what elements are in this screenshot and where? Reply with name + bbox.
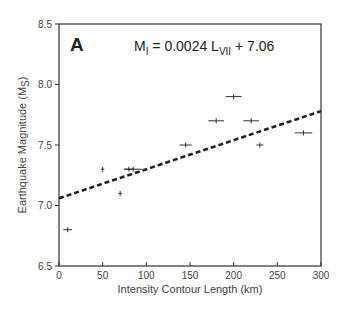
x-axis-title: Intensity Contour Length (km) <box>118 283 263 295</box>
x-tick-label: 150 <box>182 270 199 281</box>
regression-line <box>59 111 321 198</box>
data-points <box>63 94 312 232</box>
y-axis-title: Earthquake Magnitude (MS) <box>16 77 31 214</box>
y-tick-label: 8.0 <box>38 79 52 90</box>
data-point <box>256 143 263 148</box>
y-axis: 6.57.07.58.08.5 <box>38 19 59 272</box>
x-tick-label: 250 <box>269 270 286 281</box>
data-point <box>180 143 192 148</box>
data-point <box>243 118 259 123</box>
data-point <box>101 167 104 172</box>
data-point <box>295 130 312 135</box>
equation-label: MI = 0.0024 LVII + 7.06 <box>134 38 275 57</box>
x-tick-label: 200 <box>225 270 242 281</box>
x-axis: 050100150200250300 <box>56 262 330 281</box>
y-tick-label: 6.5 <box>38 261 52 272</box>
scatter-chart: 050100150200250300 6.57.07.58.08.5 A MI … <box>0 0 346 309</box>
x-tick-label: 50 <box>97 270 109 281</box>
x-tick-label: 0 <box>56 270 62 281</box>
y-tick-label: 7.0 <box>38 200 52 211</box>
data-point <box>226 94 242 99</box>
data-point <box>208 118 224 123</box>
x-tick-label: 100 <box>138 270 155 281</box>
fit-line <box>59 111 321 198</box>
panel-label: A <box>70 34 84 55</box>
data-point <box>118 191 121 196</box>
y-tick-label: 7.5 <box>38 140 52 151</box>
x-tick-label: 300 <box>313 270 330 281</box>
data-point <box>63 227 72 232</box>
y-tick-label: 8.5 <box>38 19 52 30</box>
